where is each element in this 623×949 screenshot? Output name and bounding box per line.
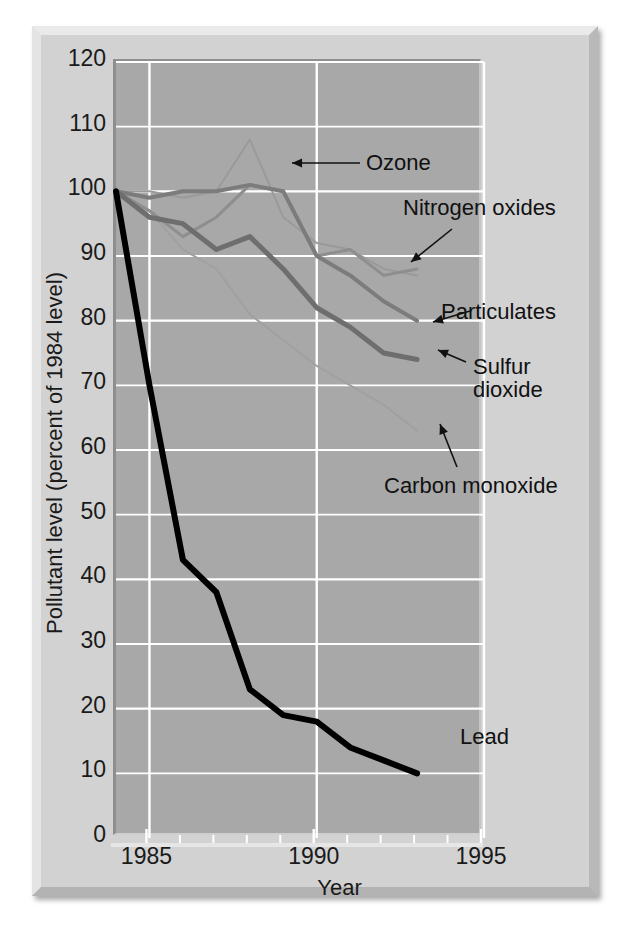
annotation-sulfur-dioxide-line2: dioxide bbox=[473, 378, 543, 401]
annotation-nitrogen-oxides: Nitrogen oxides bbox=[403, 196, 556, 219]
annotation-sulfur-dioxide: Sulfur dioxide bbox=[473, 355, 543, 402]
annotation-lead: Lead bbox=[460, 725, 509, 748]
annotation-sulfur-dioxide-line1: Sulfur bbox=[473, 355, 543, 378]
figure-root: 0102030405060708090100110120 19851990199… bbox=[0, 0, 623, 949]
annotation-carbon-monoxide: Carbon monoxide bbox=[384, 474, 558, 497]
annotation-ozone: Ozone bbox=[366, 151, 431, 174]
annotation-particulates: Particulates bbox=[441, 300, 556, 323]
